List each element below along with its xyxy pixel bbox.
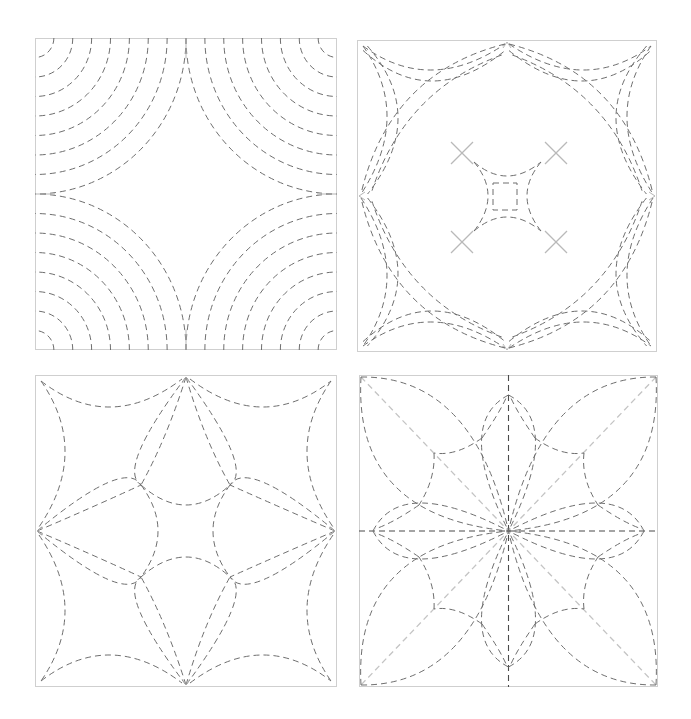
stitch-arc [535,438,584,454]
panel-concentric-corner-arcs [35,38,337,350]
stitch-arc [474,217,541,231]
stitch-arc [135,377,186,485]
stitch-arc [434,438,482,454]
stitch-arc [37,485,141,531]
stitch-arc [373,531,509,559]
panel-frame [36,376,337,687]
stitch-arc [141,577,186,685]
stitch-arc [37,531,141,577]
stitch-arc [419,557,434,609]
panel-double-line-star [357,40,657,352]
stitch-arc [535,608,584,624]
stitch-arc [511,397,536,438]
stitch-arc [361,198,387,346]
stitch-arc [141,485,158,577]
stitch-arc [509,198,653,348]
stitch-arc [598,505,642,529]
stitch-arc [361,46,387,194]
stitch-arc [361,198,505,348]
concentric-arc [186,38,337,194]
stitch-arc [307,535,333,681]
stitch-arc [482,397,507,438]
concentric-arc [262,38,338,116]
concentric-arc [35,38,92,97]
concentric-arc [35,272,111,350]
concentric-arc [205,38,337,175]
stitch-arc [372,55,502,191]
stitch-arc [307,381,333,527]
stitch-arc [141,557,230,577]
stitch-arc [598,533,642,557]
stitch-arc [527,162,541,231]
concentric-arc [280,292,337,351]
stitch-arc [367,46,398,194]
concentric-arc [35,38,73,77]
concentric-arc [35,331,54,351]
stitch-arc [474,162,488,231]
stitch-arc [141,485,230,505]
stitch-arc [474,162,541,176]
panel-eight-point-flower [359,375,658,687]
concentric-arc [35,311,73,350]
concentric-arc [35,38,148,155]
inner-square [493,183,517,210]
concentric-arc [186,194,337,350]
stitch-arc [375,533,419,557]
stitch-arc [41,655,182,683]
stitch-arc [616,46,647,194]
stitch-arc [509,531,645,559]
stitch-arc [511,624,536,665]
stitch-arc [627,198,653,346]
stitch-arc [39,535,65,681]
stitch-arc [372,201,502,337]
stitch-arc [509,503,645,531]
stitch-arc [363,311,505,342]
stitch-arc [190,379,331,407]
concentric-arcs-diagram [35,38,337,350]
stitch-arc [509,50,651,81]
stitch-arc [627,46,653,194]
stitch-arc [509,311,651,342]
eight-point-flower-diagram [359,375,658,687]
stitch-arc [584,557,598,609]
stitch-arc [367,198,398,346]
stitch-arc [190,655,331,683]
stitch-arc [135,577,186,685]
stitch-arc [584,453,598,505]
concentric-arc [35,214,167,351]
concentric-arc [205,214,337,351]
concentric-arc [318,331,337,351]
concentric-arc [262,272,338,350]
concentric-arc [35,38,167,175]
stitch-arc [186,377,230,485]
stitch-arc [39,381,65,527]
stitch-arc [482,624,507,665]
panel-petal-star [35,375,337,687]
panel-frame [358,41,657,352]
concentric-arc [280,38,337,97]
stitch-arc [434,608,482,624]
stitch-arc [363,50,505,81]
stitch-arc [37,531,141,584]
concentric-arc [224,38,337,155]
concentric-arc [35,38,111,116]
concentric-arc [35,233,148,350]
concentric-arc [35,194,186,350]
stitch-arc [616,198,647,346]
concentric-arc [35,38,186,194]
stitch-arc [512,55,642,191]
stitch-arc [373,503,509,531]
stitch-arc [512,201,642,337]
concentric-arc [35,292,92,351]
double-line-star-diagram [357,40,657,352]
concentric-arc [299,38,337,77]
stitch-arc [213,485,230,577]
concentric-arc [224,233,337,350]
concentric-arc [35,38,54,58]
stitch-arc [375,505,419,529]
panel-frame [36,39,337,350]
stitch-arc [41,379,182,407]
stitch-arc [141,377,186,485]
stitch-arc [230,478,335,531]
concentric-arc [299,311,337,350]
